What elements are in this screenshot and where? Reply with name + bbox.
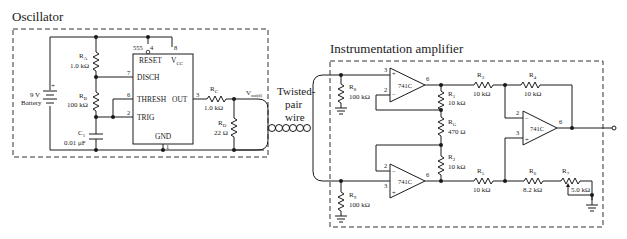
cable-label-1: Twisted- <box>277 85 316 97</box>
r6-value: 8.2 kΩ <box>523 186 542 194</box>
rb-value: 100 kΩ <box>67 101 88 109</box>
amplifier-title: Instrumentation amplifier <box>330 41 464 56</box>
svg-text:R8: R8 <box>349 83 357 92</box>
cable-label-3: wire <box>285 111 305 123</box>
svg-text:−: − <box>392 168 396 175</box>
svg-text:DISCH: DISCH <box>137 73 160 82</box>
rc-value: 1.0 kΩ <box>204 104 223 112</box>
resistor-r1-icon <box>438 85 444 110</box>
svg-text:3: 3 <box>516 129 519 136</box>
svg-text:2: 2 <box>516 109 519 116</box>
resistor-r8-icon <box>335 75 347 114</box>
svg-text:2: 2 <box>127 109 130 116</box>
svg-text:RB: RB <box>79 92 88 101</box>
resistor-r2-icon <box>438 145 444 181</box>
r1-value: 10 kΩ <box>448 99 465 107</box>
svg-text:R2: R2 <box>448 153 456 162</box>
resistor-r6-icon <box>505 178 557 184</box>
r7-value: 5.0 kΩ <box>571 186 590 194</box>
r2-value: 10 kΩ <box>448 163 465 171</box>
svg-text:OUT: OUT <box>172 95 188 104</box>
svg-text:6: 6 <box>559 118 563 125</box>
svg-text:3: 3 <box>384 66 387 73</box>
svg-text:Vout(d): Vout(d) <box>246 89 263 98</box>
svg-text:2: 2 <box>384 86 387 93</box>
svg-text:R3: R3 <box>477 71 485 80</box>
r4-value: 10 kΩ <box>524 90 541 98</box>
svg-text:RC: RC <box>210 85 219 94</box>
svg-text:+: + <box>392 70 396 77</box>
svg-text:2: 2 <box>384 162 387 169</box>
battery-label: Battery <box>21 99 42 107</box>
svg-text:7: 7 <box>127 69 131 76</box>
resistor-rb-icon <box>93 77 99 117</box>
svg-text:6: 6 <box>127 91 131 98</box>
svg-text:8: 8 <box>174 44 177 51</box>
resistor-r5-icon <box>460 178 505 184</box>
svg-text:−: − <box>392 91 396 98</box>
svg-text:+: + <box>392 189 396 196</box>
r9-value: 100 kΩ <box>349 201 370 209</box>
svg-text:6: 6 <box>426 75 430 82</box>
svg-text:R7: R7 <box>562 167 570 176</box>
svg-text:3: 3 <box>196 91 199 98</box>
svg-text:1: 1 <box>166 143 169 150</box>
svg-text:−: − <box>525 115 529 122</box>
svg-text:R9: R9 <box>349 191 357 200</box>
svg-text:R4: R4 <box>529 71 537 80</box>
resistor-r3-icon <box>460 82 505 88</box>
cable-label-2: pair <box>285 98 302 110</box>
svg-text:741C: 741C <box>398 178 412 185</box>
svg-text:3: 3 <box>384 182 387 189</box>
svg-text:TRIG: TRIG <box>137 113 155 122</box>
svg-text:+: + <box>51 82 55 90</box>
r8-value: 100 kΩ <box>349 93 370 101</box>
svg-text:4: 4 <box>150 44 154 51</box>
resistor-ra-icon <box>93 37 99 77</box>
svg-text:R5: R5 <box>477 167 485 176</box>
ra-value: 1.0 kΩ <box>70 62 89 70</box>
svg-text:C1: C1 <box>78 129 86 138</box>
rg-value: 470 Ω <box>448 128 465 136</box>
r5-value: 10 kΩ <box>473 186 490 194</box>
svg-text:THRESH: THRESH <box>137 95 167 104</box>
twisted-pair-icon <box>269 125 311 132</box>
capacitor-c1-icon <box>89 117 103 150</box>
svg-text:RESET: RESET <box>139 56 162 65</box>
resistor-rg-icon <box>438 110 444 145</box>
svg-text:741C: 741C <box>398 82 412 89</box>
cable-loop-left <box>234 99 268 150</box>
circuit-diagram: Oscillator + 9 V Battery RA 1.0 kΩ RB 10… <box>0 0 627 239</box>
svg-text:GND: GND <box>155 132 172 141</box>
svg-text:RG: RG <box>448 118 457 127</box>
c1-value: 0.01 μF <box>64 139 86 147</box>
svg-text:6: 6 <box>426 171 430 178</box>
svg-text:741C: 741C <box>530 125 544 132</box>
oscillator-title: Oscillator <box>12 9 64 24</box>
svg-text:555: 555 <box>133 44 143 51</box>
svg-text:RA: RA <box>79 52 88 61</box>
svg-text:R6: R6 <box>529 167 537 176</box>
output-terminal <box>612 126 616 130</box>
battery-icon <box>43 37 57 150</box>
resistor-r9-icon <box>335 181 347 222</box>
ground-icon <box>586 195 598 211</box>
svg-text:RD: RD <box>218 119 227 128</box>
cable-loop-right <box>313 75 341 181</box>
resistor-rd-icon <box>231 99 237 150</box>
svg-text:R1: R1 <box>448 90 456 99</box>
amplifier-box <box>330 61 603 227</box>
r3-value: 10 kΩ <box>473 90 490 98</box>
battery-voltage: 9 V <box>30 91 40 99</box>
svg-text:+: + <box>525 136 529 143</box>
rd-value: 22 Ω <box>214 129 228 137</box>
